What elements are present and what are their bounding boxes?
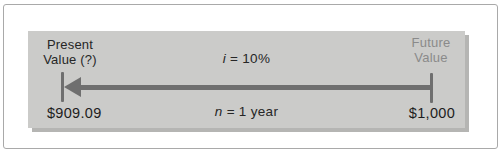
timeline-arrow-shaft	[76, 85, 432, 90]
interest-rate-symbol: i	[223, 51, 226, 66]
interest-rate-label: i= 10%	[28, 51, 465, 66]
period-symbol: n	[215, 104, 223, 119]
figure-page: Present Value (?) Future Value i= 10% n=…	[0, 0, 502, 154]
present-value-label-line1: Present	[28, 37, 112, 52]
timeline-panel: Present Value (?) Future Value i= 10% n=…	[28, 31, 465, 128]
future-amount: $1,000	[409, 105, 455, 121]
future-value-label-line1: Future	[398, 35, 464, 50]
interest-rate-value: = 10%	[230, 51, 270, 66]
period-value: = 1 year	[227, 104, 279, 119]
present-amount: $909.09	[47, 105, 102, 121]
